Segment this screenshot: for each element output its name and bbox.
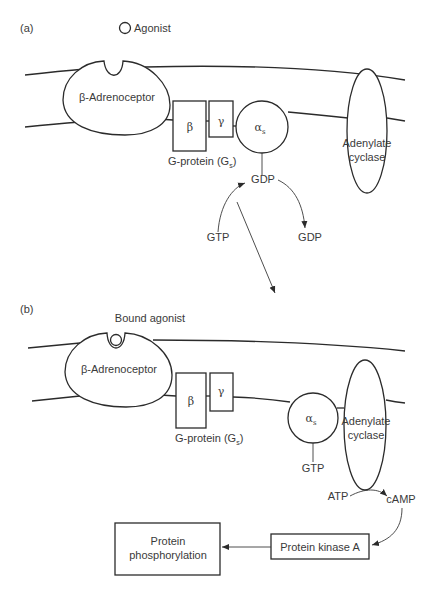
transition-arrow: [237, 202, 275, 293]
cyclase-line2-b: cyclase: [348, 429, 385, 441]
camp-label: cAMP: [386, 493, 415, 505]
membrane-inner-left-b: [32, 396, 80, 401]
g-protein-label-a: G-protein (Gs): [168, 155, 236, 169]
cyclase-line2-a: cyclase: [349, 151, 386, 163]
adenylate-cyclase-a: [347, 69, 387, 193]
bound-agonist-label: Bound agonist: [115, 312, 185, 324]
beta-label-a: β: [187, 121, 193, 134]
agonist-icon: [120, 23, 131, 34]
gdp-bound-label: GDP: [251, 173, 275, 185]
panel-a-label: (a): [20, 22, 33, 34]
gdp-out-arrow: [278, 180, 305, 228]
beta-label-b: β: [188, 395, 194, 408]
atp-label: ATP: [328, 490, 349, 502]
phospho-line2: phosphorylation: [129, 549, 207, 561]
membrane-inner-seg2-b: [233, 397, 290, 402]
cyclase-line1-a: Adenylate: [343, 137, 392, 149]
membrane-outer-left-b: [28, 343, 80, 348]
gtp-in-arrow: [218, 183, 245, 232]
panel-b: (b) Bound agonist β-Adrenoceptor β γ G-p…: [20, 303, 416, 575]
membrane-inner-seg3: [387, 118, 405, 121]
membrane-inner-seg2: [288, 112, 348, 118]
gamma-label-b: γ: [218, 385, 225, 398]
kinase-label: Protein kinase A: [280, 541, 360, 553]
cyclase-line1-b: Adenylate: [342, 415, 391, 427]
agonist-label: Agonist: [134, 22, 171, 34]
receptor-label-a: β-Adrenoceptor: [79, 91, 155, 103]
g-alpha-subunit-a: [236, 101, 288, 153]
phospho-line1: Protein: [151, 535, 186, 547]
atp-to-camp-arrow: [350, 490, 387, 496]
signal-transduction-diagram: (a) Agonist β-Adrenoceptor β γ αs G-prot…: [0, 0, 437, 597]
g-protein-label-b: G-protein (Gs): [175, 432, 243, 446]
g-alpha-subunit-b: [288, 393, 338, 443]
membrane-inner-seg3-b: [386, 400, 405, 403]
panel-a: (a) Agonist β-Adrenoceptor β γ αs G-prot…: [20, 22, 405, 293]
membrane-inner-left: [25, 122, 80, 127]
panel-b-label: (b): [20, 303, 33, 315]
gdp-out-label: GDP: [298, 231, 322, 243]
receptor-label-b: β-Adrenoceptor: [81, 363, 157, 375]
camp-to-kinase-arrow: [372, 508, 402, 545]
gtp-bound-label: GTP: [302, 462, 325, 474]
gtp-in-label: GTP: [207, 231, 230, 243]
membrane-outer-right-b: [153, 340, 405, 351]
bound-agonist-icon: [111, 335, 122, 346]
gamma-label-a: γ: [218, 115, 225, 128]
